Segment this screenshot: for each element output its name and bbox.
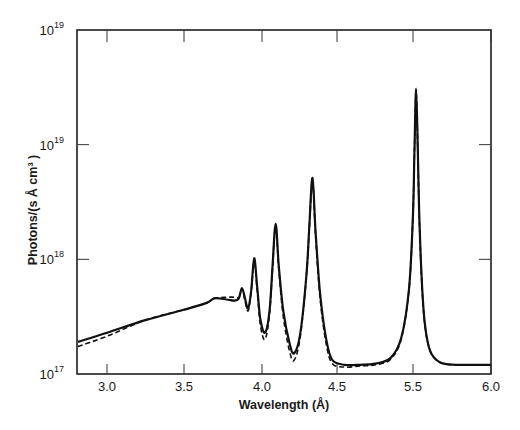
spectrum-chart: 3.03.54.04.55.56.0 1017101810191019 Wave… — [0, 0, 520, 430]
y-tick-label: 1019 — [40, 135, 64, 153]
y-tick-label: 1017 — [40, 364, 64, 382]
series-layer — [78, 89, 491, 368]
y-axis-ticks: 1017101810191019 — [40, 20, 491, 382]
y-tick-label: 1018 — [40, 249, 64, 267]
y-axis-title: Photons/(s Å cm³ ) — [25, 155, 40, 265]
x-axis-title: Wavelength (Å) — [239, 397, 330, 412]
x-tick-label: 4.0 — [253, 379, 271, 394]
x-tick-label: 4.5 — [328, 379, 346, 394]
x-tick-label: 5.5 — [404, 379, 422, 394]
x-tick-label: 3.0 — [98, 379, 116, 394]
dashed-series-line — [78, 91, 491, 367]
x-tick-label: 6.0 — [482, 379, 500, 394]
x-tick-label: 3.5 — [175, 379, 193, 394]
y-tick-label: 1019 — [40, 20, 64, 38]
